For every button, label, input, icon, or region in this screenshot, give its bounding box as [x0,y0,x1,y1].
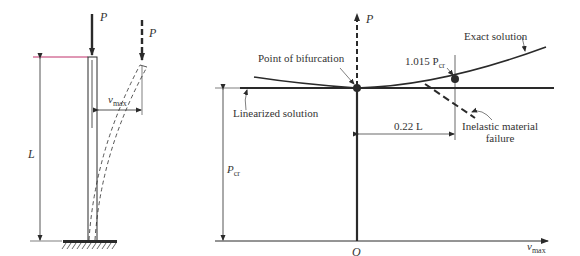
y-axis-label: P [366,13,373,25]
load-label: P [100,11,107,23]
pcr-label: Pcr [227,163,240,180]
column-figure [30,14,147,249]
origin-label: O [352,246,361,256]
offset-label: 0.22 L [394,120,423,132]
length-label: L [28,148,35,160]
load-point-dot [451,75,459,83]
bifurcation-point [353,84,361,92]
deflected-load-label: P [149,27,156,39]
exact-solution-label: Exact solution [464,30,527,42]
inelastic-failure-line [425,84,475,118]
deflection-label: vmax [108,93,127,110]
fixed-support [63,240,117,243]
x-axis-label: vmax [527,240,546,256]
straight-column [88,57,97,241]
load-point-label: 1.015 Pcr [405,55,445,72]
failure-label: Inelastic material failure [457,120,543,144]
linearized-solution-label: Linearized solution [233,107,318,119]
bifurcation-label: Point of bifurcation [258,52,344,64]
